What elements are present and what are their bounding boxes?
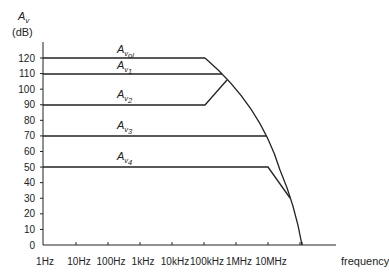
y-tick-label: 10 <box>24 224 36 235</box>
series-line-av4 <box>43 167 290 198</box>
x-tick-label: 100kHz <box>190 256 224 267</box>
y-tick-label: 80 <box>24 115 36 126</box>
series-line-av2 <box>43 80 227 105</box>
x-tick-label: 10Hz <box>67 256 90 267</box>
x-tick-label: 1kHz <box>132 256 155 267</box>
x-tick-label: 1Hz <box>36 256 54 267</box>
x-axis-ticks: 1Hz10Hz100Hz1kHz10kHz100kHz1MHz10MHz <box>36 242 302 267</box>
y-tick-label: 30 <box>24 193 36 204</box>
series-label-av4: Av4 <box>116 150 132 167</box>
series-label-av2: Av2 <box>116 88 133 105</box>
y-tick-label: 20 <box>24 208 36 219</box>
bode-plot: Av (dB) 0102030405060708090100110120 1Hz… <box>0 0 389 279</box>
y-tick-label: 0 <box>29 240 35 251</box>
y-tick-label: 90 <box>24 99 36 110</box>
y-axis-title: Av <box>17 10 30 25</box>
series-label-av3: Av3 <box>116 119 133 136</box>
y-tick-label: 110 <box>19 68 35 79</box>
x-axis-title: frequency <box>341 255 389 267</box>
open-loop-rolloff-curve <box>205 58 302 245</box>
y-axis-unit: (dB) <box>12 26 33 38</box>
y-tick-label: 50 <box>24 162 36 173</box>
x-tick-label: 1MHz <box>226 256 252 267</box>
x-tick-label: 10kHz <box>161 256 189 267</box>
y-tick-label: 120 <box>18 53 35 64</box>
x-tick-label: 10MHz <box>255 256 287 267</box>
y-tick-label: 70 <box>24 130 36 141</box>
y-tick-label: 100 <box>18 84 35 95</box>
y-tick-label: 40 <box>24 177 36 188</box>
y-tick-label: 60 <box>24 146 36 157</box>
x-tick-label: 100Hz <box>97 256 126 267</box>
y-axis-ticks: 0102030405060708090100110120 <box>18 53 43 251</box>
